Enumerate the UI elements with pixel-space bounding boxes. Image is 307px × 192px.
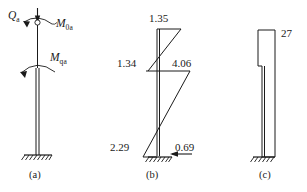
panel-c-value-top-right: 27 [281, 28, 292, 39]
panel-c-caption: (c) [259, 170, 271, 181]
panel-c-drawing [0, 0, 307, 192]
panel-c-base-hatch [251, 157, 275, 162]
engineering-figure: Qa M0a Mqa (a) [0, 0, 307, 192]
